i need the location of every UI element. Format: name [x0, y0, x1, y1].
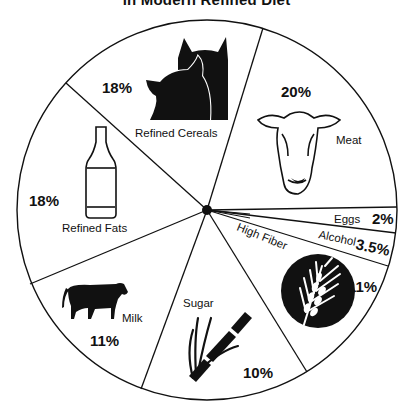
center-dot: [202, 205, 212, 215]
pct-sugar: 10%: [243, 364, 273, 381]
pct-eggs: 2%: [372, 210, 394, 227]
label-sugar: Sugar: [183, 297, 214, 309]
pct-refined-cereals: 18%: [102, 79, 132, 96]
label-refined-fats: Refined Fats: [62, 222, 127, 234]
label-milk: Milk: [122, 312, 143, 324]
pct-meat: 20%: [281, 83, 311, 100]
pct-refined-fats: 18%: [29, 192, 59, 209]
label-meat: Meat: [336, 134, 362, 146]
pie-chart: 18% Refined Cereals 20% Meat Eggs 2% Alc…: [0, 0, 413, 418]
pct-high-fiber: 11%: [348, 278, 377, 295]
label-eggs: Eggs: [334, 213, 360, 225]
label-refined-cereals: Refined Cereals: [135, 127, 218, 139]
pct-milk: 11%: [90, 332, 119, 349]
